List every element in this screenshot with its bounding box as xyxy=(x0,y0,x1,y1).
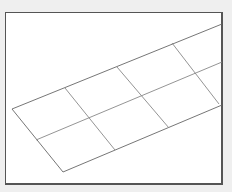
grid-column-line-3 xyxy=(172,43,219,104)
perspective-grid xyxy=(0,0,232,192)
grid-column-line-1 xyxy=(65,88,115,150)
grid-left-edge xyxy=(12,109,63,172)
grid-middle-line xyxy=(36,62,222,140)
grid-column-line-2 xyxy=(117,67,169,128)
